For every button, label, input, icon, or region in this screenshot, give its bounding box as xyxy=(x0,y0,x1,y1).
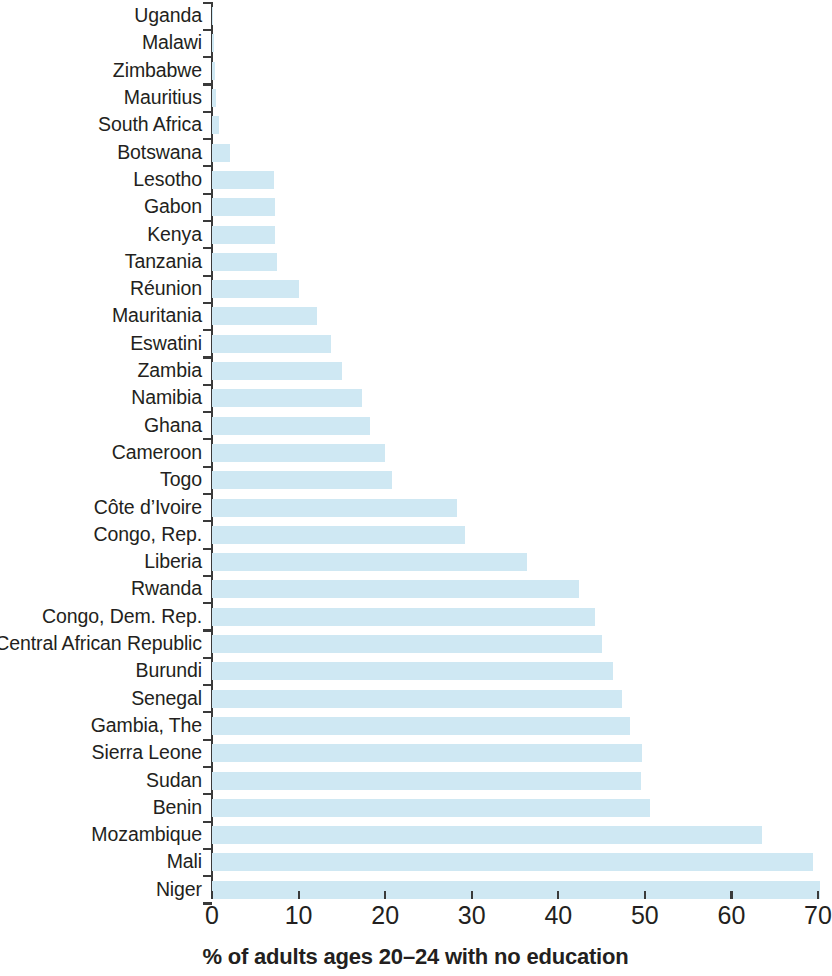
y-axis-tick xyxy=(203,629,212,631)
bar-row: Sierra Leone xyxy=(0,740,831,767)
bar-row: Réunion xyxy=(0,276,831,303)
bar-row: Uganda xyxy=(0,3,831,30)
x-axis-tick xyxy=(817,891,819,899)
x-axis-tick xyxy=(557,891,559,899)
y-axis-tick xyxy=(203,247,212,249)
x-axis-tick-label: 20 xyxy=(371,903,399,928)
bar-row: Togo xyxy=(0,467,831,494)
bar xyxy=(212,171,274,189)
category-label: Burundi xyxy=(135,662,202,682)
bar-row: Congo, Rep. xyxy=(0,521,831,548)
bar xyxy=(212,307,317,325)
y-axis-tick xyxy=(203,56,212,58)
y-axis-tick xyxy=(203,29,212,31)
bar xyxy=(212,881,820,899)
y-axis-tick xyxy=(203,275,212,277)
bar-row: Namibia xyxy=(0,385,831,412)
bar xyxy=(212,89,216,107)
y-axis-tick xyxy=(203,438,212,440)
y-axis-tick xyxy=(203,821,212,823)
y-axis-tick xyxy=(203,602,212,604)
y-axis-tick xyxy=(203,684,212,686)
x-axis-title: % of adults ages 20–24 with no education xyxy=(0,944,831,970)
category-label: Niger xyxy=(156,880,202,900)
category-label: Réunion xyxy=(130,279,202,299)
category-label: South Africa xyxy=(98,116,202,136)
bar xyxy=(212,116,219,134)
x-axis-tick xyxy=(384,891,386,899)
category-label: Senegal xyxy=(131,689,202,709)
bar xyxy=(212,34,214,52)
bar xyxy=(212,499,457,517)
bar xyxy=(212,662,613,680)
bar-row: Rwanda xyxy=(0,576,831,603)
bar-row: Central African Republic xyxy=(0,630,831,657)
y-axis-tick xyxy=(203,220,212,222)
bar-row: South Africa xyxy=(0,112,831,139)
x-axis-tick-label: 60 xyxy=(718,903,746,928)
bar xyxy=(212,226,275,244)
x-axis-tick-label: 30 xyxy=(458,903,486,928)
category-label: Zambia xyxy=(138,361,202,381)
bar-row: Lesotho xyxy=(0,166,831,193)
bar xyxy=(212,389,362,407)
y-axis-tick xyxy=(203,520,212,522)
category-label: Congo, Rep. xyxy=(94,525,202,545)
y-axis-tick xyxy=(203,875,212,877)
bar xyxy=(212,198,275,216)
bar-row: Côte d’Ivoire xyxy=(0,494,831,521)
x-axis-tick-label: 50 xyxy=(631,903,659,928)
y-axis-tick xyxy=(203,793,212,795)
category-label: Lesotho xyxy=(133,170,202,190)
category-label: Ghana xyxy=(144,416,202,436)
category-label: Gambia, The xyxy=(91,716,202,736)
bar-row: Sudan xyxy=(0,767,831,794)
y-axis-tick xyxy=(203,575,212,577)
bar-row: Liberia xyxy=(0,549,831,576)
y-axis-tick xyxy=(203,111,212,113)
category-label: Kenya xyxy=(147,225,202,245)
bar-row: Malawi xyxy=(0,30,831,57)
category-label: Côte d’Ivoire xyxy=(94,498,202,518)
bar xyxy=(212,635,602,653)
bar-row: Zimbabwe xyxy=(0,57,831,84)
category-label: Liberia xyxy=(144,552,202,572)
bar xyxy=(212,744,642,762)
y-axis-tick xyxy=(203,411,212,413)
bar-row: Cameroon xyxy=(0,439,831,466)
x-axis-tick xyxy=(471,891,473,899)
category-label: Togo xyxy=(160,470,202,490)
bar-row: Benin xyxy=(0,794,831,821)
y-axis-tick xyxy=(203,356,212,358)
bar xyxy=(212,608,595,626)
x-axis-tick xyxy=(298,891,300,899)
bar-row: Congo, Dem. Rep. xyxy=(0,603,831,630)
y-axis-tick xyxy=(203,493,212,495)
x-axis-tick-label: 0 xyxy=(205,903,219,928)
bar xyxy=(212,853,813,871)
y-axis-tick xyxy=(203,384,212,386)
category-label: Malawi xyxy=(142,34,202,54)
bar xyxy=(212,717,630,735)
x-axis-tick-label: 10 xyxy=(285,903,313,928)
y-axis-tick xyxy=(203,766,212,768)
y-axis-tick xyxy=(203,548,212,550)
bar xyxy=(212,471,392,489)
bar-row: Mozambique xyxy=(0,822,831,849)
bar xyxy=(212,335,331,353)
bar-row: Eswatini xyxy=(0,330,831,357)
bar xyxy=(212,526,465,544)
category-label: Eswatini xyxy=(130,334,202,354)
category-label: Sudan xyxy=(146,771,202,791)
category-label: Mali xyxy=(167,853,202,873)
bar xyxy=(212,580,579,598)
category-label: Mozambique xyxy=(91,825,202,845)
y-axis-tick xyxy=(203,848,212,850)
category-label: Tanzania xyxy=(125,252,202,272)
plot-area: UgandaMalawiZimbabweMauritiusSouth Afric… xyxy=(0,0,831,898)
bar xyxy=(212,826,762,844)
bar-row: Niger xyxy=(0,876,831,903)
category-label: Central African Republic xyxy=(0,634,202,654)
x-axis-tick xyxy=(211,891,213,899)
